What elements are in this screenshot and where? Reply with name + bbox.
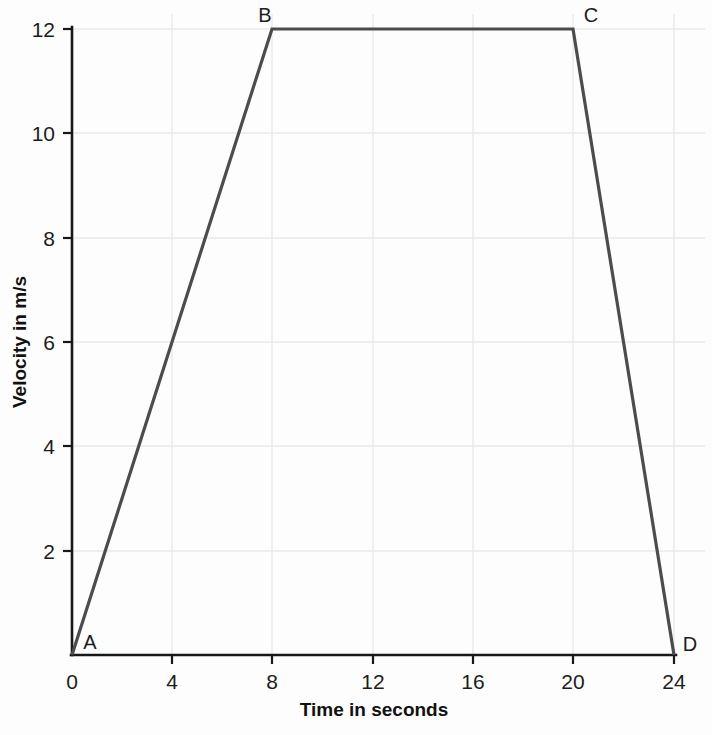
x-tick-label-20: 20 — [561, 670, 584, 693]
x-tick-label-16: 16 — [461, 670, 484, 693]
x-tick-label-24: 24 — [662, 670, 686, 693]
x-tick-label-4: 4 — [166, 670, 178, 693]
x-tick-label-8: 8 — [266, 670, 278, 693]
y-tick-label-4: 4 — [43, 435, 55, 458]
point-label-d: D — [683, 633, 697, 655]
x-axis-title: Time in seconds — [300, 699, 449, 720]
y-tick-label-10: 10 — [32, 122, 55, 145]
chart-background — [0, 0, 712, 735]
y-axis-title: Velocity in m/s — [9, 276, 30, 408]
point-label-a: A — [83, 631, 97, 653]
velocity-time-graph-figure: 2 4 6 8 10 12 0 4 8 12 16 20 24 A B C D … — [0, 0, 712, 735]
y-tick-label-12: 12 — [32, 18, 55, 41]
y-tick-label-8: 8 — [43, 227, 55, 250]
chart-canvas: 2 4 6 8 10 12 0 4 8 12 16 20 24 A B C D … — [0, 0, 712, 735]
point-label-c: C — [584, 4, 598, 26]
x-tick-label-12: 12 — [361, 670, 384, 693]
point-label-b: B — [258, 4, 271, 26]
x-tick-label-0: 0 — [66, 670, 78, 693]
y-tick-label-2: 2 — [43, 540, 55, 563]
y-tick-label-6: 6 — [43, 331, 55, 354]
